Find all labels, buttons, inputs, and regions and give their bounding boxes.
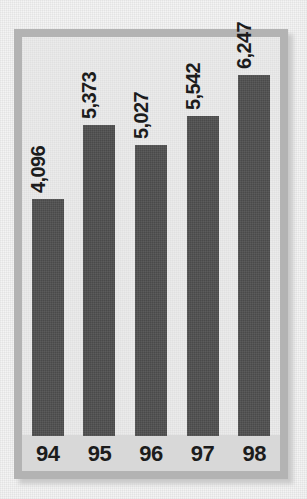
bar-value-label-95: 5,373 <box>79 72 99 119</box>
bar-95 <box>83 125 115 436</box>
plot-area: 4,0965,3735,0275,5426,247 <box>22 37 280 436</box>
x-tick-label-96: 96 <box>125 439 177 469</box>
bar-chart-figure: 4,0965,3735,0275,5426,247 9495969798 <box>0 0 307 499</box>
bar-94 <box>32 199 64 436</box>
bar-group-97: 5,542 <box>187 37 219 436</box>
x-tick-label-97: 97 <box>177 439 229 469</box>
bar-96 <box>135 145 167 436</box>
bar-value-label-97: 5,542 <box>183 62 203 109</box>
bar-group-98: 6,247 <box>238 37 270 436</box>
bar-group-94: 4,096 <box>32 37 64 436</box>
x-tick-label-98: 98 <box>228 439 280 469</box>
bar-group-96: 5,027 <box>135 37 167 436</box>
x-tick-label-94: 94 <box>22 439 74 469</box>
bar-98 <box>238 75 270 436</box>
bar-value-label-96: 5,027 <box>131 92 151 139</box>
bar-group-95: 5,373 <box>83 37 115 436</box>
bar-97 <box>187 116 219 436</box>
x-tick-label-95: 95 <box>74 439 126 469</box>
bar-value-label-98: 6,247 <box>234 22 254 69</box>
bar-value-label-94: 4,096 <box>28 146 48 193</box>
x-axis-tick-labels: 9495969798 <box>22 437 280 471</box>
